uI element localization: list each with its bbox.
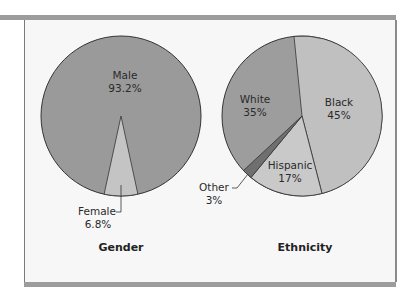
black-pct: 45% <box>327 109 350 121</box>
female-label: Female <box>78 205 116 217</box>
hispanic-pct: 17% <box>278 172 301 184</box>
gender-pie <box>41 36 201 212</box>
other-leader-line <box>237 174 248 188</box>
black-label: Black <box>325 96 354 108</box>
white-label: White <box>240 93 271 105</box>
male-label: Male <box>113 69 138 81</box>
gender-title: Gender <box>98 241 144 254</box>
ethnicity-title: Ethnicity <box>278 241 333 254</box>
male-pct: 93.2% <box>108 82 141 94</box>
hispanic-label: Hispanic <box>268 159 313 171</box>
other-label: Other <box>199 181 229 193</box>
white-pct: 35% <box>243 106 266 118</box>
other-pct: 3% <box>206 194 223 206</box>
female-pct: 6.8% <box>85 218 112 230</box>
charts-canvas: Male 93.2% Female 6.8% Gender White 35% … <box>0 0 413 308</box>
